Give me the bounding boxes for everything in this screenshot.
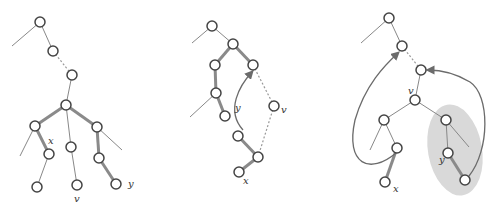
tree-node	[111, 179, 121, 189]
tree-node	[416, 65, 426, 75]
tree-node	[210, 60, 220, 70]
tree-diagram-svg: xvyyvxvxy	[0, 0, 490, 205]
tree-node	[269, 101, 279, 111]
node-label-y: y	[127, 178, 134, 189]
tree-figure: xvyyvxvxy	[0, 0, 490, 205]
panel-1: xvy	[12, 17, 134, 204]
tree-node	[392, 143, 402, 153]
arrow-curve	[353, 53, 398, 164]
tree-node	[32, 182, 42, 192]
tree-node	[94, 153, 104, 163]
node-label-x: x	[48, 135, 54, 146]
dotted-edge	[258, 106, 274, 157]
node-label-v: v	[408, 85, 414, 96]
tree-node	[441, 115, 451, 125]
tree-node	[48, 46, 58, 56]
tree-node	[92, 122, 102, 132]
tree-node	[35, 17, 45, 27]
tree-node	[460, 175, 470, 185]
node-label-x: x	[393, 183, 399, 194]
tree-node	[384, 13, 394, 23]
tree-node	[67, 70, 77, 80]
dotted-edge	[253, 65, 274, 106]
node-label-y: y	[234, 102, 241, 113]
tree-edge	[66, 105, 71, 147]
tree-node	[72, 180, 82, 190]
node-label-v: v	[74, 193, 80, 204]
tree-node	[379, 115, 389, 125]
node-label-v: v	[281, 104, 287, 115]
tree-node	[44, 149, 54, 159]
tree-node	[61, 100, 71, 110]
arrow-curve	[235, 72, 252, 130]
tree-node	[380, 177, 390, 187]
tree-node	[220, 111, 230, 121]
node-label-y: y	[438, 154, 445, 165]
node-label-x: x	[243, 175, 249, 186]
tree-node	[66, 142, 76, 152]
panel-3: vxy	[353, 13, 490, 200]
panel-2: yvx	[190, 21, 287, 186]
tree-node	[228, 39, 238, 49]
tree-node	[253, 152, 263, 162]
tree-node	[410, 95, 420, 105]
tree-node	[211, 88, 221, 98]
tree-node	[233, 131, 243, 141]
tree-node	[248, 60, 258, 70]
tree-node	[397, 41, 407, 51]
subtree-highlight	[420, 100, 489, 200]
tree-node	[30, 121, 40, 131]
tree-node	[207, 21, 217, 31]
tree-edge	[71, 147, 77, 185]
